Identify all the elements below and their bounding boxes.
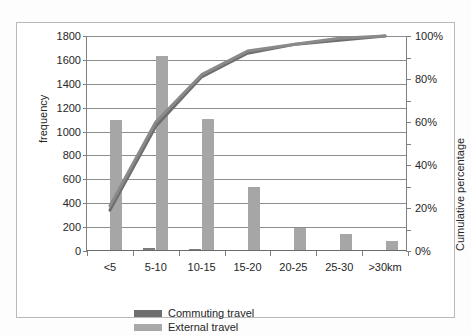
legend-item: External travel [134, 320, 254, 334]
y-tick-label-right: 80% [415, 74, 437, 85]
y-tick-label-left: 600 [41, 174, 81, 185]
x-axis-line [87, 250, 406, 251]
y-tick-label-right: 60% [415, 117, 437, 128]
legend-swatch [134, 310, 162, 317]
x-tick-mark [179, 251, 180, 256]
x-tick-mark [408, 251, 409, 256]
chart-legend: Commuting travelExternal travel [134, 306, 254, 334]
legend-label: External travel [168, 320, 238, 334]
y-tick-label-right: 0% [415, 246, 431, 257]
x-axis-label: >30km [368, 261, 401, 273]
y-tick-label-left: 1800 [41, 31, 81, 42]
y-tick-label-left: 800 [41, 150, 81, 161]
legend-item: Commuting travel [134, 306, 254, 320]
y-tick-label-left: 1200 [41, 102, 81, 113]
x-tick-mark [316, 251, 317, 256]
y-tick-label-right: 40% [415, 160, 437, 171]
cumulative-line [110, 36, 385, 210]
y-tick-label-right: 20% [415, 203, 437, 214]
y-tick-label-left: 1000 [41, 126, 81, 137]
chart-frame: frequency Cumulative percentage 02004006… [16, 22, 455, 318]
legend-label: Commuting travel [168, 306, 254, 320]
x-axis-label: 20-25 [279, 261, 307, 273]
x-tick-mark [362, 251, 363, 256]
cumulative-lines-layer [87, 36, 408, 251]
x-tick-mark [133, 251, 134, 256]
y-tick-label-left: 1600 [41, 54, 81, 65]
x-axis-label: 10-15 [188, 261, 216, 273]
x-axis-label: 15-20 [233, 261, 261, 273]
x-axis-label: 5-10 [145, 261, 167, 273]
y-tick-label-left: 200 [41, 222, 81, 233]
plot-area: 020040060080010001200140016001800 0%20%4… [86, 36, 407, 251]
y-tick-label-left: 1400 [41, 78, 81, 89]
x-axis-label: <5 [104, 261, 117, 273]
x-axis-label: 25-30 [325, 261, 353, 273]
cumulative-line [110, 36, 385, 206]
x-tick-mark [225, 251, 226, 256]
y-tick-label-left: 0 [41, 246, 81, 257]
x-tick-mark [270, 251, 271, 256]
y-axis-title-right: Cumulative percentage [454, 138, 466, 251]
x-tick-mark [87, 251, 88, 256]
y-tick-label-right: 100% [415, 31, 443, 42]
y-tick-label-left: 400 [41, 198, 81, 209]
legend-swatch [134, 324, 162, 331]
